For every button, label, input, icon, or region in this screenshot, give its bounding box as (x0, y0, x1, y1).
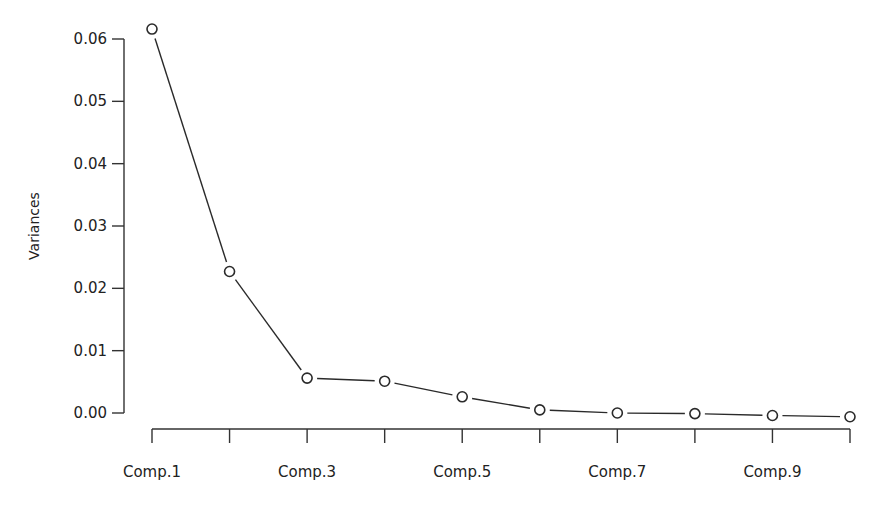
x-axis: Comp.1Comp.3Comp.5Comp.7Comp.9 (123, 429, 850, 481)
data-point-marker (457, 392, 467, 402)
series-segment (155, 39, 226, 262)
data-point-marker (612, 408, 622, 418)
x-tick-label: Comp.5 (433, 463, 491, 481)
data-point-marker (147, 24, 157, 34)
y-tick-label: 0.02 (74, 279, 107, 297)
scree-plot: 0.000.010.020.030.040.050.06 Comp.1Comp.… (0, 0, 872, 511)
series-segment (550, 410, 608, 412)
y-tick-label: 0.05 (74, 92, 107, 110)
y-tick-label: 0.06 (74, 30, 107, 48)
y-axis-title: Variances (26, 192, 42, 260)
data-point-marker (380, 376, 390, 386)
data-point-marker (690, 409, 700, 419)
y-tick-label: 0.00 (74, 404, 107, 422)
x-tick-label: Comp.1 (123, 463, 181, 481)
series-segment (235, 280, 301, 370)
data-point-marker (845, 412, 855, 422)
x-tick-label: Comp.9 (743, 463, 801, 481)
series-segment (705, 414, 763, 415)
y-axis: 0.000.010.020.030.040.050.06 (74, 30, 124, 422)
x-tick-label: Comp.3 (278, 463, 336, 481)
data-point-marker (535, 405, 545, 415)
series-segment (472, 398, 530, 408)
x-tick-label: Comp.7 (588, 463, 646, 481)
y-tick-label: 0.04 (74, 155, 107, 173)
y-tick-label: 0.01 (74, 342, 107, 360)
y-tick-label: 0.03 (74, 217, 107, 235)
series-segment (394, 383, 452, 395)
data-point-marker (767, 410, 777, 420)
data-point-marker (302, 373, 312, 383)
series-segment (782, 416, 840, 417)
data-point-marker (225, 267, 235, 277)
series-segment (317, 378, 375, 380)
plot-area (147, 24, 855, 422)
